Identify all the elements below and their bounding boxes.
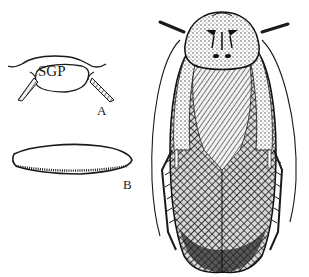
panel-b-tegmen [13,144,132,174]
label-a: A [97,103,106,119]
main-cockroach [152,12,296,272]
illustration-svg [0,0,309,277]
label-b: B [123,177,132,193]
cockroach-figure: SGP A B [0,0,309,277]
label-sgp: SGP [38,63,66,80]
